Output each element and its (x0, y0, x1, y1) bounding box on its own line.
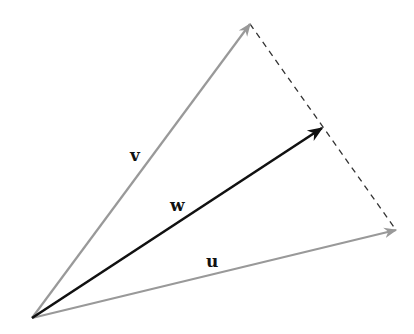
vector-w-arrow (32, 128, 322, 318)
parallelogram-dashed-edge (250, 24, 396, 230)
vector-u-label: u (206, 251, 218, 271)
vector-v-label: v (129, 145, 141, 165)
vector-w-label: w (169, 195, 185, 215)
vector-diagram: v w u (0, 0, 414, 334)
